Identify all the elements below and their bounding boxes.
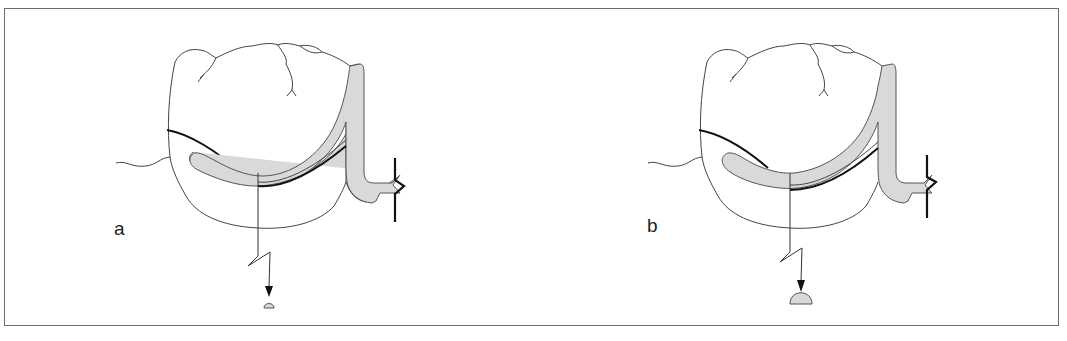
panel-a-drawing xyxy=(0,0,1067,341)
gingiva-line-icon xyxy=(116,157,170,166)
panel-label-a: a xyxy=(114,218,125,240)
minor-connector xyxy=(190,64,400,203)
dome-small-icon xyxy=(264,304,274,309)
dome-large-icon xyxy=(790,293,812,304)
panel-b-tooth xyxy=(648,43,936,304)
arrow-head-icon xyxy=(265,286,273,297)
force-line xyxy=(248,173,270,288)
panel-label-b: b xyxy=(647,215,658,237)
panel-a-tooth xyxy=(116,43,404,308)
